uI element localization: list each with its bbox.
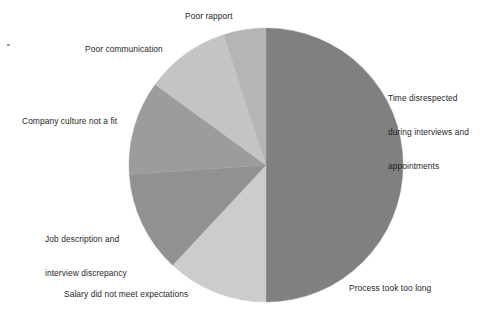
slice-label-poor-communication: Poor communication: [85, 44, 163, 55]
stray-mark: [7, 44, 10, 46]
slice-label-line: Job description and: [45, 234, 127, 245]
slice-label-poor-rapport: Poor rapport: [185, 11, 233, 22]
slice-label-line: during interviews and: [388, 127, 469, 138]
slice-label-line: appointments: [388, 161, 469, 172]
slice-label-line: interview discrepancy: [45, 268, 127, 279]
slice-label-time-disrespected: Time disrespected during interviews and …: [388, 70, 469, 195]
pie-slice: [266, 28, 403, 165]
slice-label-job-description: Job description and interview discrepanc…: [45, 211, 127, 302]
slice-label-line: Time disrespected: [388, 93, 469, 104]
pie-chart: Time disrespected during interviews and …: [0, 0, 494, 318]
pie-slice: [266, 165, 403, 302]
slice-label-process-took-too-long: Process took too long: [349, 283, 431, 294]
slice-label-company-culture: Company culture not a fit: [22, 116, 117, 127]
pie-slice-group: [129, 28, 403, 302]
